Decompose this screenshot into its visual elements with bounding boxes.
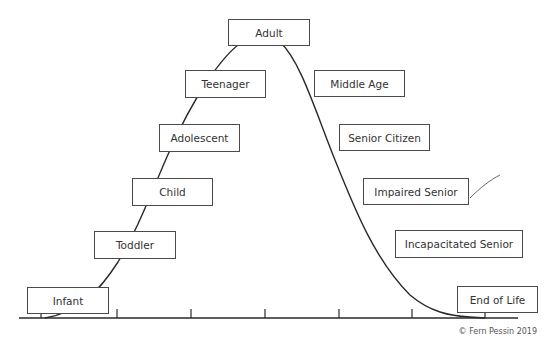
stage-box-impaired-senior: Impaired Senior	[363, 178, 469, 205]
stage-box-end-of-life: End of Life	[457, 286, 538, 313]
stage-box-middle-age: Middle Age	[314, 70, 405, 97]
stage-box-child: Child	[132, 178, 213, 206]
stage-box-incapacitated-senior: Incapacitated Senior	[395, 230, 523, 258]
stage-box-teenager: Teenager	[185, 70, 266, 98]
annotation-stroke	[470, 175, 500, 198]
stage-box-toddler: Toddler	[94, 231, 176, 259]
stage-box-infant: Infant	[27, 287, 109, 314]
stage-box-senior-citizen: Senior Citizen	[339, 124, 430, 151]
copyright-notice: © Fern Pessin 2019	[459, 327, 537, 336]
stage-box-adolescent: Adolescent	[159, 124, 240, 152]
stage-box-adult: Adult	[228, 19, 310, 46]
